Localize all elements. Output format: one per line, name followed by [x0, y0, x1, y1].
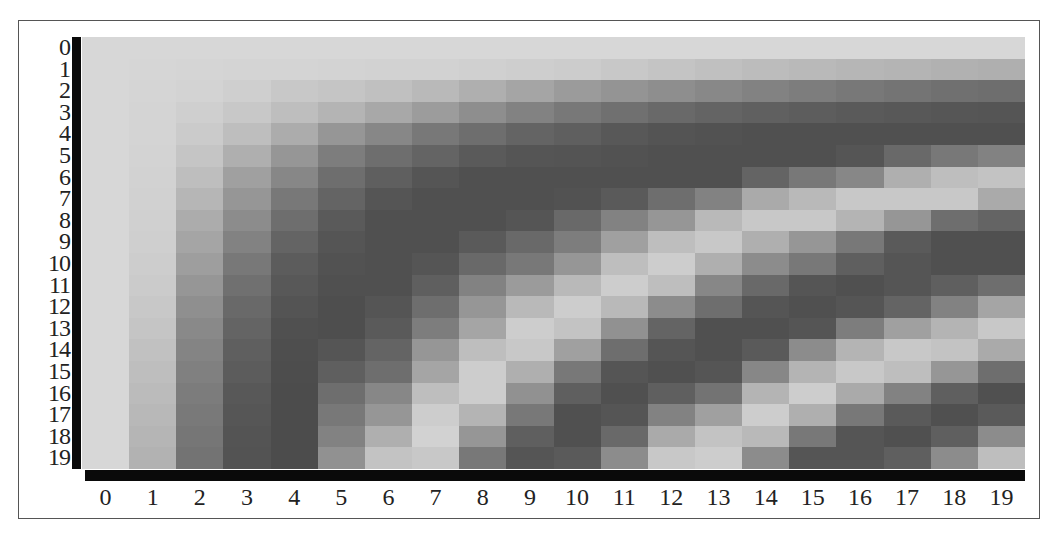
heatmap-cell	[978, 339, 1025, 361]
heatmap-cell	[365, 253, 412, 275]
heatmap-cell	[176, 80, 223, 102]
heatmap-cell	[223, 231, 270, 253]
heatmap-cell	[271, 59, 318, 81]
heatmap-cell	[601, 80, 648, 102]
heatmap-cell	[129, 361, 176, 383]
heatmap-cell	[742, 145, 789, 167]
heatmap-cell	[884, 318, 931, 340]
heatmap-cell	[506, 318, 553, 340]
heatmap-cell	[365, 210, 412, 232]
heatmap-cell	[82, 361, 129, 383]
x-tick-label: 10	[554, 484, 601, 510]
heatmap-cell	[412, 318, 459, 340]
heatmap-cell	[695, 123, 742, 145]
heatmap-cell	[836, 275, 883, 297]
heatmap-cell	[695, 447, 742, 469]
x-tick-label: 12	[648, 484, 695, 510]
x-tick-label: 9	[506, 484, 553, 510]
heatmap-cell	[648, 404, 695, 426]
heatmap-cell	[695, 296, 742, 318]
heatmap-cell	[931, 296, 978, 318]
heatmap-cell	[459, 145, 506, 167]
heatmap-cell	[223, 275, 270, 297]
heatmap-cell	[742, 167, 789, 189]
heatmap-cell	[931, 167, 978, 189]
heatmap-cell	[506, 210, 553, 232]
heatmap-cell	[978, 188, 1025, 210]
heatmap-cell	[506, 404, 553, 426]
heatmap-cell	[459, 231, 506, 253]
heatmap-cell	[223, 188, 270, 210]
heatmap-cell	[695, 339, 742, 361]
heatmap-cell	[601, 102, 648, 124]
heatmap-cell	[365, 426, 412, 448]
heatmap-cell	[648, 339, 695, 361]
heatmap-cell	[695, 80, 742, 102]
heatmap-cell	[223, 318, 270, 340]
heatmap-cell	[742, 447, 789, 469]
heatmap-cell	[648, 231, 695, 253]
heatmap-cell	[789, 253, 836, 275]
heatmap-cell	[836, 188, 883, 210]
heatmap-cell	[318, 253, 365, 275]
heatmap-cell	[506, 59, 553, 81]
heatmap-cell	[695, 102, 742, 124]
heatmap-cell	[82, 275, 129, 297]
heatmap-cell	[176, 37, 223, 59]
heatmap-cell	[742, 339, 789, 361]
heatmap-cell	[648, 102, 695, 124]
heatmap-cell	[931, 102, 978, 124]
heatmap-cell	[271, 296, 318, 318]
heatmap-cell	[459, 80, 506, 102]
heatmap-cell	[365, 167, 412, 189]
heatmap-cell	[271, 167, 318, 189]
x-tick-label: 8	[459, 484, 506, 510]
heatmap-cell	[789, 210, 836, 232]
heatmap-cell	[318, 426, 365, 448]
heatmap-cell	[365, 296, 412, 318]
heatmap-cell	[176, 361, 223, 383]
heatmap-cell	[978, 447, 1025, 469]
heatmap-cell	[82, 383, 129, 405]
heatmap-cell	[223, 447, 270, 469]
heatmap-cell	[742, 426, 789, 448]
heatmap-cell	[836, 80, 883, 102]
heatmap-cell	[601, 339, 648, 361]
heatmap-cell	[365, 383, 412, 405]
heatmap-cell	[554, 383, 601, 405]
heatmap-cell	[554, 231, 601, 253]
heatmap-cell	[742, 404, 789, 426]
heatmap-cell	[412, 339, 459, 361]
heatmap-cell	[176, 231, 223, 253]
heatmap-cell	[836, 361, 883, 383]
heatmap-cell	[459, 275, 506, 297]
heatmap-cell	[459, 167, 506, 189]
heatmap-cell	[884, 447, 931, 469]
heatmap-cell	[412, 123, 459, 145]
heatmap-cell	[978, 318, 1025, 340]
heatmap-cell	[978, 145, 1025, 167]
heatmap-cell	[836, 318, 883, 340]
heatmap-cell	[648, 361, 695, 383]
heatmap-cell	[459, 426, 506, 448]
x-tick-label: 1	[129, 484, 176, 510]
heatmap-cell	[506, 188, 553, 210]
heatmap-cell	[742, 253, 789, 275]
heatmap-cell	[365, 188, 412, 210]
heatmap-cell	[82, 80, 129, 102]
x-tick-label: 11	[601, 484, 648, 510]
heatmap-cell	[978, 383, 1025, 405]
heatmap-cell	[365, 123, 412, 145]
heatmap-cell	[554, 123, 601, 145]
heatmap-cell	[601, 296, 648, 318]
heatmap-cell	[789, 296, 836, 318]
heatmap-cell	[459, 404, 506, 426]
x-axis-bar	[85, 470, 1025, 481]
heatmap-cell	[836, 102, 883, 124]
heatmap-cell	[129, 318, 176, 340]
heatmap-cell	[176, 383, 223, 405]
heatmap-cell	[931, 361, 978, 383]
heatmap-cell	[506, 167, 553, 189]
heatmap-cell	[648, 167, 695, 189]
heatmap-cell	[459, 102, 506, 124]
